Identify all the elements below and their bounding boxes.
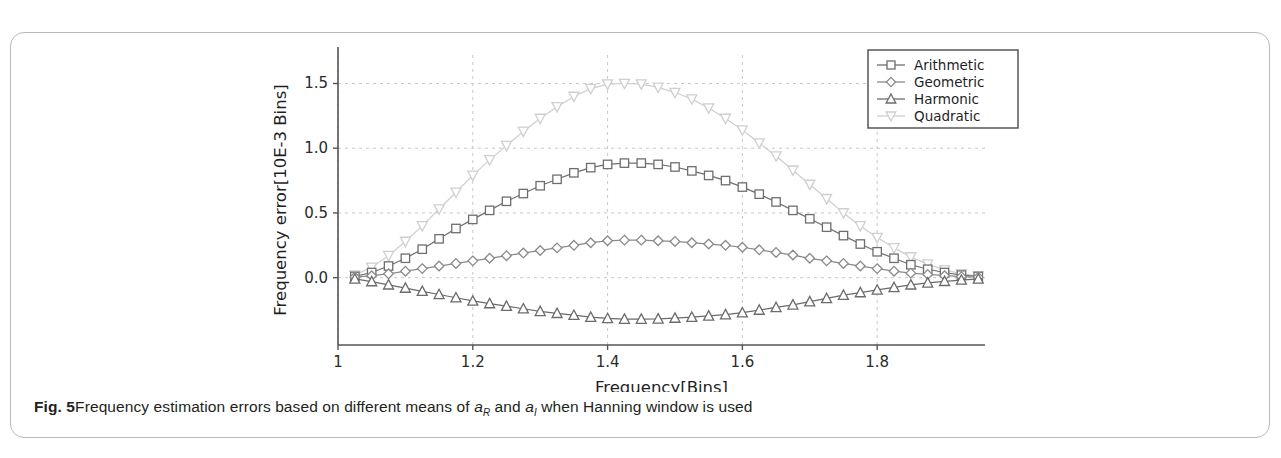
caption-text-1: Frequency estimation errors based on dif… bbox=[75, 398, 474, 415]
marker-square bbox=[570, 169, 578, 177]
marker-square bbox=[721, 176, 729, 184]
x-tick-label: 1.8 bbox=[865, 353, 889, 371]
caption-symbol-ai: a bbox=[525, 398, 534, 415]
legend-label-harmonic: Harmonic bbox=[914, 91, 979, 107]
marker-square bbox=[755, 190, 763, 198]
marker-square bbox=[620, 159, 628, 167]
y-tick-label: 1.0 bbox=[304, 139, 328, 157]
marker-square bbox=[839, 231, 847, 239]
legend-label-geometric: Geometric bbox=[914, 74, 985, 90]
y-axis-label: Frequency error[10E-3 Bins] bbox=[271, 84, 290, 315]
marker-square bbox=[789, 206, 797, 214]
marker-square bbox=[671, 163, 679, 171]
marker-square bbox=[519, 189, 527, 197]
caption-symbol-ar: a bbox=[474, 398, 483, 415]
x-axis-label: Frequency[Bins] bbox=[595, 378, 728, 392]
marker-square bbox=[822, 223, 830, 231]
marker-square bbox=[806, 215, 814, 223]
x-tick-label: 1.2 bbox=[461, 353, 485, 371]
marker-square bbox=[704, 171, 712, 179]
marker-square bbox=[553, 175, 561, 183]
chart-svg: 11.21.41.61.80.00.51.01.5Frequency[Bins]… bbox=[0, 0, 1281, 392]
marker-square bbox=[637, 159, 645, 167]
marker-square bbox=[401, 254, 409, 262]
x-tick-label: 1 bbox=[333, 353, 343, 371]
x-tick-label: 1.4 bbox=[596, 353, 620, 371]
marker-square bbox=[654, 160, 662, 168]
chart-plot-area: 11.21.41.61.80.00.51.01.5Frequency[Bins]… bbox=[0, 0, 1281, 392]
marker-square bbox=[890, 254, 898, 262]
marker-square bbox=[856, 240, 864, 248]
marker-square bbox=[873, 248, 881, 256]
marker-square bbox=[452, 224, 460, 232]
x-tick-label: 1.6 bbox=[730, 353, 754, 371]
legend-label-quadratic: Quadratic bbox=[914, 108, 980, 124]
marker-square bbox=[772, 198, 780, 206]
caption-text-mid: and bbox=[490, 398, 525, 415]
marker-square bbox=[587, 163, 595, 171]
figure-label: Fig. 5 bbox=[34, 398, 75, 415]
marker-square bbox=[603, 160, 611, 168]
marker-square bbox=[887, 61, 895, 69]
marker-square bbox=[738, 183, 746, 191]
y-tick-label: 0.5 bbox=[304, 204, 328, 222]
marker-square bbox=[418, 245, 426, 253]
caption-text-2: when Hanning window is used bbox=[537, 398, 753, 415]
legend-label-arithmetic: Arithmetic bbox=[914, 57, 984, 73]
marker-square bbox=[536, 182, 544, 190]
figure-caption: Fig. 5Frequency estimation errors based … bbox=[34, 398, 1214, 418]
marker-square bbox=[502, 197, 510, 205]
marker-square bbox=[688, 167, 696, 175]
marker-square bbox=[435, 235, 443, 243]
y-tick-label: 0.0 bbox=[304, 269, 328, 287]
marker-square bbox=[469, 215, 477, 223]
marker-square bbox=[485, 206, 493, 214]
y-tick-label: 1.5 bbox=[304, 74, 328, 92]
